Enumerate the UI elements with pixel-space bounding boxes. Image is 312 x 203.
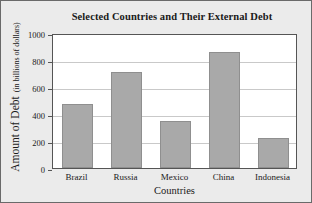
chart-title: Selected Countries and Their External De…: [41, 11, 303, 22]
y-axis-tick-label: 800: [32, 57, 45, 67]
y-axis-tick-mark: [48, 143, 52, 144]
x-axis-tick-label: Russia: [113, 172, 137, 182]
y-axis-tick-label: 400: [32, 111, 45, 121]
bar: [258, 138, 288, 168]
y-axis-tick-mark: [48, 35, 52, 36]
chart-figure: Selected Countries and Their External De…: [0, 0, 312, 203]
y-axis-tick-mark: [48, 89, 52, 90]
y-axis-title: Amount of Debt (in billions of dollars): [9, 17, 25, 177]
gridline: [53, 89, 296, 90]
x-axis-tick-label: Mexico: [161, 172, 189, 182]
x-axis-tick-label: Brazil: [66, 172, 88, 182]
y-axis-tick-mark: [48, 62, 52, 63]
y-axis-tick-label: 1000: [28, 30, 45, 40]
y-axis-tick-label: 200: [32, 138, 45, 148]
y-axis-tick-mark: [48, 116, 52, 117]
x-axis-tick-label: China: [213, 172, 235, 182]
y-axis-tick-label: 600: [32, 84, 45, 94]
y-axis-title-main: Amount of Debt: [9, 96, 21, 171]
bar: [62, 104, 92, 168]
plot-area: 02004006008001000: [52, 34, 297, 169]
y-axis-tick-label: 0: [41, 165, 45, 175]
bar: [160, 121, 190, 168]
bar: [111, 72, 141, 168]
x-axis-title: Countries: [52, 185, 297, 196]
gridline: [53, 62, 296, 63]
bar: [209, 52, 239, 168]
y-axis-tick-mark: [48, 170, 52, 171]
x-axis-tick-label: Indonesia: [255, 172, 290, 182]
y-axis-title-units: (in billions of dollars): [12, 22, 21, 92]
